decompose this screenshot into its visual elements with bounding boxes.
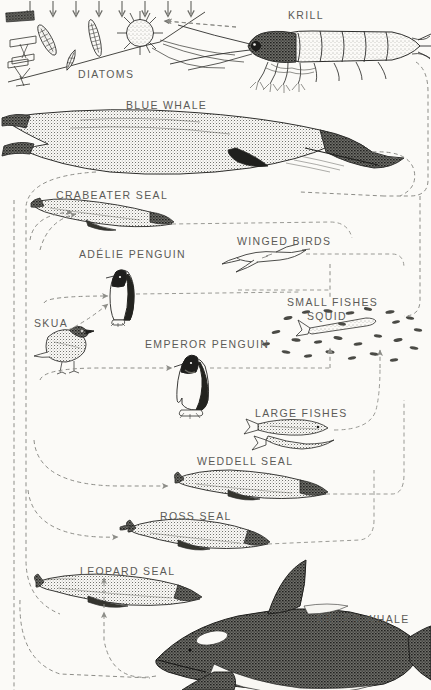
winged-birds-illustration <box>222 244 310 272</box>
krill-illustration <box>170 25 431 93</box>
large-fishes-illustration <box>244 419 334 450</box>
label-adelie-penguin: ADÉLIE PENGUIN <box>79 248 186 261</box>
weddell-seal-illustration <box>174 470 328 500</box>
sunlight-arrow-icon <box>73 1 79 16</box>
skua-illustration <box>34 326 94 374</box>
label-diatoms: DIATOMS <box>78 68 134 81</box>
label-emperor-penguin: EMPEROR PENGUIN <box>145 338 269 351</box>
sunlight-arrows-group <box>27 1 194 16</box>
label-krill: KRILL <box>288 9 324 22</box>
label-skua: SKUA <box>34 317 68 330</box>
sunlight-arrow-icon <box>96 1 102 16</box>
leopard-seal-illustration <box>34 574 202 607</box>
label-small-fishes: SMALL FISHES <box>287 296 378 309</box>
label-killer-whale: KILLER WHALE <box>317 613 410 626</box>
adelie-penguin-illustration <box>106 270 134 327</box>
label-weddell-seal: WEDDELL SEAL <box>197 455 293 468</box>
ross-seal-illustration <box>120 519 270 550</box>
label-squid: SQUID <box>307 310 347 323</box>
label-large-fishes: LARGE FISHES <box>255 407 348 420</box>
label-blue-whale: BLUE WHALE <box>126 99 207 112</box>
crabeater-seal-illustration <box>31 198 174 231</box>
sunlight-arrow-icon <box>50 1 56 16</box>
label-winged-birds: WINGED BIRDS <box>237 235 331 248</box>
label-leopard-seal: LEOPARD SEAL <box>80 565 175 578</box>
label-crabeater-seal: CRABEATER SEAL <box>56 189 168 202</box>
sunlight-arrow-icon <box>188 1 194 16</box>
blue-whale-illustration <box>2 110 404 175</box>
emperor-penguin-illustration <box>174 355 209 419</box>
sunlight-arrow-icon <box>119 1 125 16</box>
sunlight-arrow-icon <box>142 1 148 16</box>
sunlight-arrow-icon <box>165 1 171 16</box>
label-ross-seal: ROSS SEAL <box>160 510 232 523</box>
